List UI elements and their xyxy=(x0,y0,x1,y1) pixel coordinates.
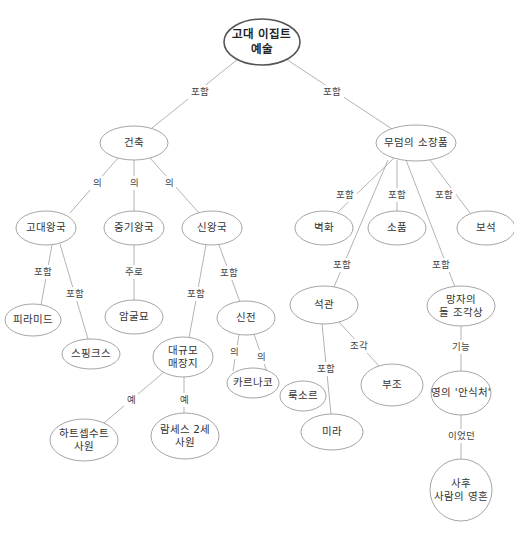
node-pyramid: 피라미드 xyxy=(5,304,61,336)
node-label: 하트셉수트 xyxy=(59,427,109,439)
edge-tomb-contents-to-jewelry: 포함 xyxy=(430,160,470,213)
edge-old-kingdom-to-sphinx: 포함 xyxy=(60,244,88,339)
edge-mortuary-to-ramesses: 예 xyxy=(177,377,191,413)
edge-middle-kingdom-to-rock-tomb: 주로 xyxy=(122,245,146,300)
edge-temple-to-karnak: 의 xyxy=(227,335,241,371)
node-label: 고대왕국 xyxy=(26,221,66,233)
node-label: 미라 xyxy=(322,425,342,437)
edge-label: 기능 xyxy=(452,341,470,352)
edge-architecture-to-middle-kingdom: 의 xyxy=(127,160,141,211)
node-label: 보석 xyxy=(476,221,496,233)
edge-coffin-to-relief: 조각 xyxy=(339,322,379,366)
node-label: 대규모 xyxy=(168,344,198,356)
node-tomb-contents: 무덤의 소장품 xyxy=(376,125,456,161)
node-label: 망자의 xyxy=(446,293,476,305)
node-label: 암굴묘 xyxy=(119,310,149,322)
edge-root-to-architecture: 포함 xyxy=(152,59,238,128)
node-sphinx: 스핑크스 xyxy=(62,339,120,369)
node-luxor: 룩소르 xyxy=(280,381,326,411)
concept-map: 포함포함의의의포함포함주로포함포함의의예예포함포함포함포함포함조각포함기능이었던… xyxy=(0,0,514,535)
edge-label: 의 xyxy=(93,177,102,188)
node-jewelry: 보석 xyxy=(457,211,514,245)
edge-ka-dwelling-to-soul: 이었던 xyxy=(444,415,478,459)
edge-line xyxy=(430,160,470,213)
node-label: 신왕국 xyxy=(197,221,227,233)
edge-label: 조각 xyxy=(350,340,368,351)
node-label: 벽화 xyxy=(314,221,334,233)
edge-tomb-contents-to-mural: 포함 xyxy=(333,158,394,212)
edge-label: 의 xyxy=(257,351,266,362)
edge-label: 의 xyxy=(230,346,239,357)
node-label: 무덤의 소장품 xyxy=(384,136,447,148)
node-label: 룩소르 xyxy=(288,389,318,401)
node-mural: 벽화 xyxy=(295,211,353,245)
node-label: 사후 xyxy=(451,477,471,489)
node-old-kingdom: 고대왕국 xyxy=(16,211,76,245)
node-ramesses: 람세스 2세사원 xyxy=(151,413,219,459)
node-relief: 부조 xyxy=(361,364,423,406)
node-ka-dwelling: 영의 '안식처' xyxy=(431,371,491,415)
node-label: 소품 xyxy=(387,221,407,233)
edge-label: 포함 xyxy=(323,86,341,97)
edge-mortuary-to-hatshepsut: 예 xyxy=(104,372,164,423)
node-label: 사원 xyxy=(175,436,195,448)
edge-label: 의 xyxy=(130,177,139,188)
edge-label: 의 xyxy=(165,177,174,188)
node-karnak: 카르나코 xyxy=(227,368,279,398)
node-label: 건축 xyxy=(124,136,144,148)
node-label: 신전 xyxy=(236,311,256,323)
node-accessories: 소품 xyxy=(368,211,426,245)
node-hatshepsut: 하트셉수트사원 xyxy=(50,419,118,461)
node-coffin: 석관 xyxy=(290,286,358,324)
edge-label: 포함 xyxy=(187,288,205,299)
edge-statue-to-ka-dwelling: 기능 xyxy=(449,326,473,371)
node-root: 고대 이집트예술 xyxy=(224,19,300,65)
node-label: 카르나코 xyxy=(233,376,273,388)
edge-label: 포함 xyxy=(220,267,238,278)
node-label: 피라미드 xyxy=(13,313,53,325)
node-label: 부조 xyxy=(382,378,402,390)
edge-label: 포함 xyxy=(34,266,52,277)
node-new-kingdom: 신왕국 xyxy=(182,211,242,245)
node-label: 스핑크스 xyxy=(71,347,111,359)
node-label: 중기왕국 xyxy=(114,221,154,233)
edge-label: 예 xyxy=(180,394,189,405)
node-label: 석관 xyxy=(314,298,334,310)
node-statue: 망자의돌 조각상 xyxy=(427,286,495,326)
node-label: 영의 '안식처' xyxy=(431,386,490,398)
edge-label: 포함 xyxy=(435,189,453,200)
edge-architecture-to-old-kingdom: 의 xyxy=(70,158,118,213)
node-label: 예술 xyxy=(251,42,273,56)
edge-label: 포함 xyxy=(66,288,84,299)
node-label: 사원 xyxy=(74,440,94,452)
node-temple: 신전 xyxy=(217,301,275,335)
edge-label: 포함 xyxy=(388,189,406,200)
edge-label: 포함 xyxy=(191,86,209,97)
edge-old-kingdom-to-pyramid: 포함 xyxy=(31,245,55,305)
node-middle-kingdom: 중기왕국 xyxy=(104,211,164,245)
edge-label: 포함 xyxy=(317,363,335,374)
edge-root-to-tomb-contents: 포함 xyxy=(286,59,392,129)
edge-new-kingdom-to-mortuary: 포함 xyxy=(184,245,208,338)
edge-new-kingdom-to-temple: 포함 xyxy=(217,245,241,302)
edge-label: 포함 xyxy=(432,259,450,270)
edge-tomb-contents-to-accessories: 포함 xyxy=(385,160,409,211)
node-soul: 사후사람의 영혼 xyxy=(430,459,492,521)
node-label: 매장지 xyxy=(168,357,198,369)
edge-label: 예 xyxy=(127,394,136,405)
node-mortuary: 대규모매장지 xyxy=(153,337,213,377)
node-rock-tomb: 암굴묘 xyxy=(105,300,163,334)
node-label: 사람의 영혼 xyxy=(434,490,487,502)
node-architecture: 건축 xyxy=(100,126,168,160)
node-label: 람세스 2세 xyxy=(160,423,210,435)
edge-label: 이었던 xyxy=(448,430,475,441)
node-mummy: 미라 xyxy=(301,414,363,450)
edge-label: 포함 xyxy=(333,259,351,270)
node-label: 돌 조각상 xyxy=(439,306,482,318)
edge-label: 주로 xyxy=(125,266,143,277)
edge-label: 포함 xyxy=(336,189,354,200)
node-label: 고대 이집트 xyxy=(232,27,291,41)
edge-architecture-to-new-kingdom: 의 xyxy=(150,158,199,213)
